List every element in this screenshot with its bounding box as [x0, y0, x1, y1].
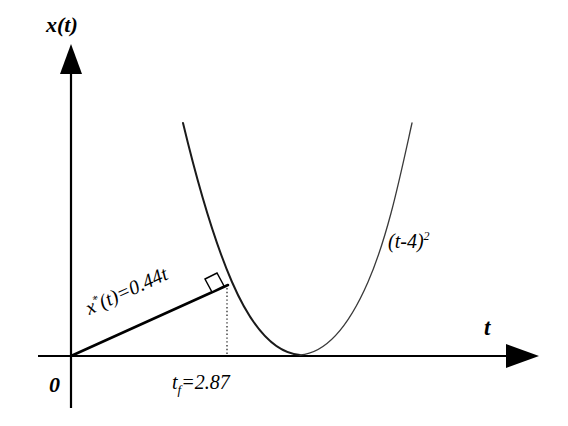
parabola-curve-left [183, 123, 300, 355]
origin-label: 0 [49, 374, 60, 396]
parabola-annotation: (t-4)2 [388, 230, 430, 251]
tf-value: =2.87 [181, 371, 230, 393]
figure-canvas: x(t) t 0 tf=2.87 (t-4)2 x*(t)=0.44t [0, 0, 568, 426]
tf-annotation: tf=2.87 [172, 372, 230, 396]
parabola-exponent: 2 [424, 229, 430, 243]
plot-svg [0, 0, 568, 426]
y-axis-arrowhead [60, 44, 82, 74]
x-axis-arrowhead [506, 344, 539, 368]
x-axis-title: t [484, 316, 490, 339]
parabola-base: (t-4) [388, 230, 424, 252]
y-axis-title: x(t) [46, 14, 78, 36]
